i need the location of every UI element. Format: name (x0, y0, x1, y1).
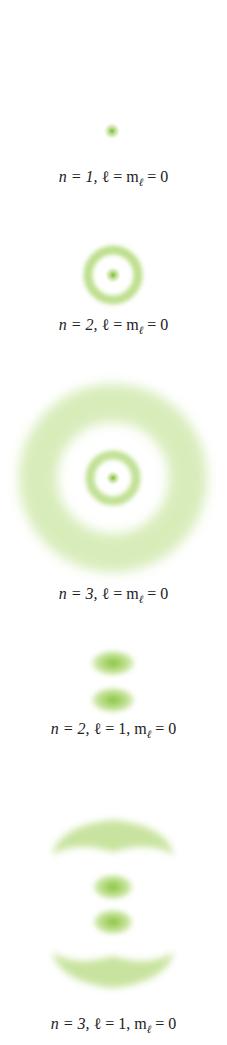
orbital-3p (52, 820, 174, 988)
label-n: n = 1, (59, 168, 98, 185)
label-n: n = 3, (59, 585, 98, 602)
label-end: = 0 (151, 1015, 176, 1032)
label-end: = 0 (143, 316, 168, 333)
label-l: ℓ = m (102, 585, 139, 602)
orbital-2p (89, 649, 137, 714)
label-end: = 0 (151, 720, 176, 737)
label-l: ℓ = m (102, 316, 139, 333)
label-3s: n = 3, ℓ = mℓ = 0 (0, 585, 227, 605)
label-1s: n = 1, ℓ = mℓ = 0 (0, 168, 227, 188)
label-l: ℓ = 1, m (94, 720, 147, 737)
label-n: n = 2, (51, 720, 90, 737)
orbital-figure (0, 0, 227, 1045)
orbital-1s (104, 123, 120, 139)
label-2s: n = 2, ℓ = mℓ = 0 (0, 316, 227, 336)
label-n: n = 2, (59, 316, 98, 333)
label-3p: n = 3, ℓ = 1, mℓ = 0 (0, 1015, 227, 1035)
label-l: ℓ = 1, m (94, 1015, 147, 1032)
orbital-2s (88, 250, 138, 300)
orbital-3s (38, 403, 188, 553)
label-end: = 0 (143, 168, 168, 185)
label-2p: n = 2, ℓ = 1, mℓ = 0 (0, 720, 227, 740)
label-n: n = 3, (51, 1015, 90, 1032)
label-l: ℓ = m (102, 168, 139, 185)
label-end: = 0 (143, 585, 168, 602)
